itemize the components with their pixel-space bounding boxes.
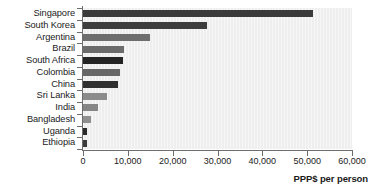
y-axis-line bbox=[82, 6, 83, 151]
bar-row bbox=[83, 67, 352, 79]
bar-row bbox=[83, 43, 352, 55]
y-axis-tick-label: Sri Lanka bbox=[0, 90, 79, 102]
y-axis-tick bbox=[77, 43, 82, 44]
bar bbox=[83, 10, 313, 17]
y-axis-tick-label: Argentina bbox=[0, 32, 79, 44]
y-axis-tick-label: Bangladesh bbox=[0, 114, 79, 126]
bar bbox=[83, 57, 123, 64]
y-axis-tick bbox=[77, 55, 82, 56]
y-axis-tick-label: Uganda bbox=[0, 126, 79, 138]
x-axis-tick-label: 20,000 bbox=[159, 157, 187, 166]
bar-row bbox=[83, 114, 352, 126]
bar bbox=[83, 69, 120, 76]
bar bbox=[83, 116, 91, 123]
bar bbox=[83, 93, 107, 100]
y-axis-tick-label: China bbox=[0, 79, 79, 91]
y-axis-tick bbox=[77, 102, 82, 103]
bar bbox=[83, 128, 87, 135]
bar-row bbox=[83, 79, 352, 91]
y-axis-tick bbox=[77, 114, 82, 115]
y-axis-tick bbox=[77, 149, 82, 150]
y-axis-tick-label: Ethiopia bbox=[0, 137, 79, 149]
bar bbox=[83, 34, 150, 41]
bar-row bbox=[83, 55, 352, 67]
y-axis-tick-label: South Africa bbox=[0, 55, 79, 67]
bar-row bbox=[83, 126, 352, 138]
x-axis-tick-label: 50,000 bbox=[293, 157, 321, 166]
y-axis-tick-label: Singapore bbox=[0, 8, 79, 20]
x-axis-tick-label: 10,000 bbox=[114, 157, 142, 166]
x-axis-tick-label: 30,000 bbox=[204, 157, 232, 166]
bar-series bbox=[83, 8, 352, 149]
bar-row bbox=[83, 137, 352, 149]
x-axis-title: PPP$ per person bbox=[293, 173, 368, 184]
bar bbox=[83, 140, 87, 147]
y-axis-tick bbox=[77, 126, 82, 127]
y-axis-tick bbox=[77, 137, 82, 138]
y-axis-tick bbox=[77, 67, 82, 68]
bar bbox=[83, 22, 207, 29]
y-axis-tick-label: India bbox=[0, 102, 79, 114]
bar bbox=[83, 104, 98, 111]
y-axis-tick bbox=[77, 79, 82, 80]
bar-row bbox=[83, 90, 352, 102]
y-axis-category-labels: SingaporeSouth KoreaArgentinaBrazilSouth… bbox=[0, 8, 79, 149]
y-axis-tick bbox=[77, 8, 82, 9]
bar-row bbox=[83, 8, 352, 20]
bar-row bbox=[83, 32, 352, 44]
y-axis-tick-label: South Korea bbox=[0, 20, 79, 32]
bar-row bbox=[83, 20, 352, 32]
y-axis-tick bbox=[77, 20, 82, 21]
y-axis-tick bbox=[77, 90, 82, 91]
y-axis-tick bbox=[77, 32, 82, 33]
bar-row bbox=[83, 102, 352, 114]
x-axis-tick-label: 0 bbox=[80, 157, 85, 166]
plot-area bbox=[83, 8, 352, 149]
x-axis-tick-label: 60,000 bbox=[338, 157, 366, 166]
bar-chart: SingaporeSouth KoreaArgentinaBrazilSouth… bbox=[0, 0, 376, 194]
y-axis-tick-label: Brazil bbox=[0, 43, 79, 55]
y-axis-tick-label: Colombia bbox=[0, 67, 79, 79]
bar bbox=[83, 81, 118, 88]
bar bbox=[83, 46, 124, 53]
x-axis-tick-label: 40,000 bbox=[249, 157, 277, 166]
